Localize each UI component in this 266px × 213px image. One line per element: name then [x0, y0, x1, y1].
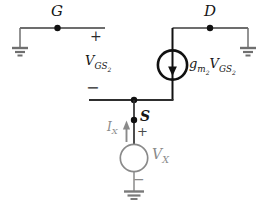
source-node-dot [131, 117, 137, 123]
vgs-label: VGS2 [85, 54, 111, 69]
circuit-diagram: G D + VGS2 − gm2VGS2 S + IX VX − [0, 0, 266, 213]
gm-vgs-label: gm2VGS2 [189, 57, 236, 72]
source-label: S [140, 109, 150, 123]
vx-plus-sign: + [137, 125, 148, 138]
drain-label: D [204, 4, 216, 19]
drain-node-dot [207, 25, 213, 31]
arrow-up-icon [123, 121, 130, 143]
ground-icon [12, 48, 28, 56]
ix-label: IX [107, 121, 118, 133]
ground-icon [240, 48, 256, 56]
source-rail [89, 97, 174, 103]
current-source-down-arrow-icon [168, 67, 177, 77]
vx-minus-sign: − [133, 172, 145, 186]
voltage-source-circle-icon [120, 144, 147, 171]
vx-label: VX [152, 147, 169, 161]
gate-node-dot [54, 25, 60, 31]
vgs-minus-sign: − [86, 80, 99, 96]
vgs-plus-sign: + [90, 29, 102, 43]
ground-icon [124, 192, 144, 200]
gate-label: G [51, 4, 63, 19]
current-source-branch [158, 28, 187, 100]
drain-branch [173, 25, 257, 56]
